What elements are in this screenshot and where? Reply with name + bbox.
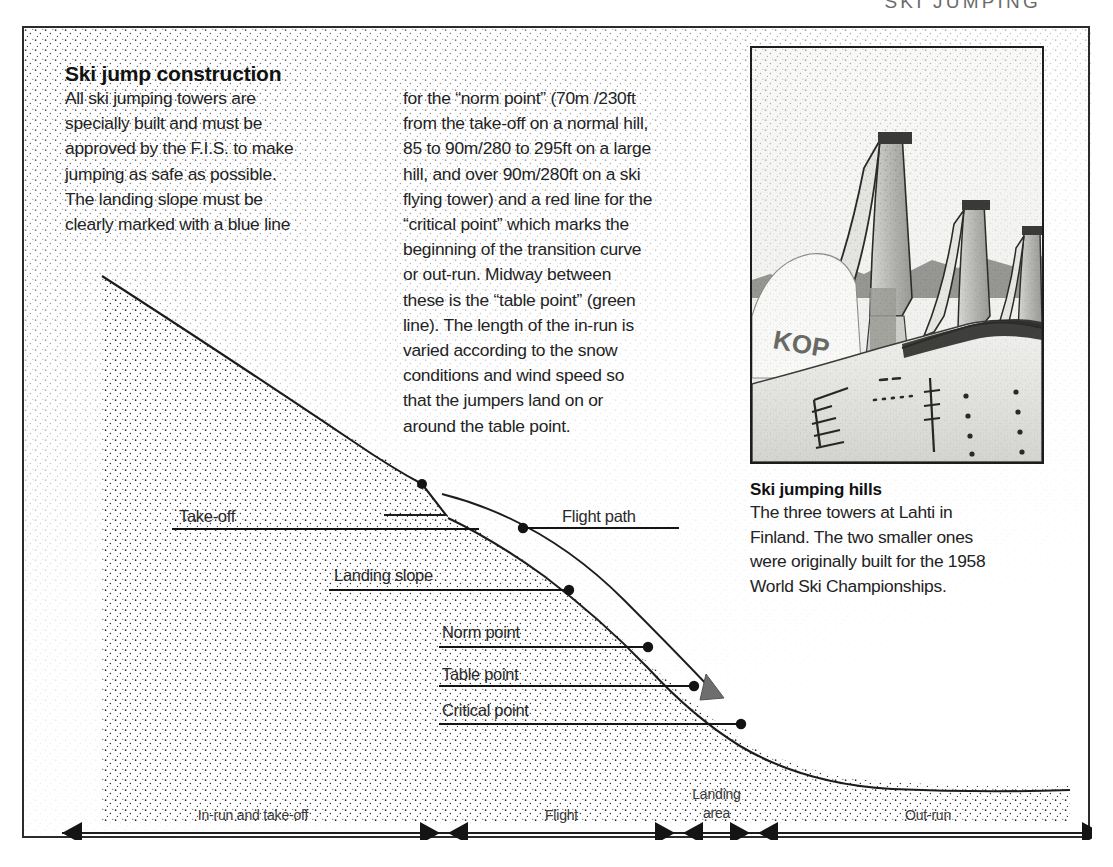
page-title: Ski jump construction: [65, 62, 281, 86]
axis-segment-label-in-run-and-take-off: In-run and take-off: [173, 806, 333, 825]
diagram-label-flight-path: Flight path: [562, 507, 636, 526]
photo-caption-title: Ski jumping hills: [750, 480, 882, 500]
in-run-ridge-line: [102, 276, 422, 484]
axis-divider-left-1: [655, 822, 675, 840]
photo-ski-jumping-towers: KOP: [750, 46, 1044, 464]
axis-arrow-end: [1082, 822, 1092, 840]
photo-caption-body: The three towers at Lahti in Finland. Th…: [750, 500, 1050, 598]
leader-dot-table-point: [689, 681, 699, 691]
diagram-label-norm-point: Norm point: [442, 623, 520, 642]
content-frame: Ski jump construction All ski jumping to…: [22, 26, 1090, 838]
axis-segment-label-landing-area: Landing area: [637, 785, 797, 823]
measure-axis-group: [62, 822, 1092, 840]
leader-dot-flight-path: [518, 523, 528, 533]
axis-arrow-start: [62, 822, 82, 840]
leader-dot-norm-point: [643, 642, 653, 652]
axis-divider-right-2: [758, 822, 778, 840]
diagram-label-table-point: Table point: [442, 665, 519, 684]
take-off-point-dot: [417, 479, 427, 489]
photo-image: KOP: [752, 48, 1042, 462]
flight-path-curve: [442, 494, 710, 688]
axis-divider-right-0: [448, 822, 468, 840]
flight-path-arrowhead: [700, 674, 724, 700]
diagram-label-take-off: Take-off: [179, 507, 235, 526]
page-root: SKI JUMPING Ski jump construction All sk…: [0, 0, 1113, 867]
diagram-label-landing-slope: Landing slope: [334, 566, 433, 585]
diagram-label-critical-point: Critical point: [442, 701, 529, 720]
running-header: SKI JUMPING: [884, 0, 1041, 13]
take-off-bench: [384, 484, 446, 515]
axis-divider-left-0: [420, 822, 440, 840]
leader-dot-critical-point: [736, 719, 746, 729]
axis-segment-label-out-run: Out-run: [848, 806, 1008, 825]
article-column-left: All ski jumping towers are specially bui…: [65, 86, 395, 237]
leader-dot-landing-slope: [564, 585, 574, 595]
axis-divider-left-2: [730, 822, 750, 840]
axis-divider-right-1: [683, 822, 703, 840]
leader-lines-group: [172, 523, 746, 729]
article-column-right: for the “norm point” (70m /230ft from th…: [403, 86, 753, 439]
axis-segment-label-flight: Flight: [482, 806, 642, 825]
